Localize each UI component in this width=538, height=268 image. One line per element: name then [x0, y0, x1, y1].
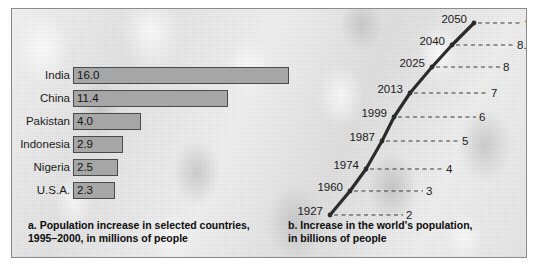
- bar-row: India16.0: [12, 67, 270, 90]
- year-label: 1927: [297, 205, 323, 217]
- data-point-marker: [430, 65, 435, 70]
- bar: [73, 67, 289, 84]
- value-label: 6: [479, 111, 485, 123]
- data-point-markers: [328, 21, 477, 218]
- bar-value-label: 16.0: [77, 67, 99, 83]
- bar-category-label: India: [12, 67, 70, 84]
- bar-value-label: 11.4: [77, 90, 99, 106]
- year-label: 2050: [441, 13, 467, 25]
- year-label: 1987: [349, 131, 375, 143]
- panel-b-caption: b. Increase in the world's population, i…: [288, 219, 508, 245]
- bar-row: Pakistan4.0: [12, 113, 270, 136]
- bar-row: Nigeria2.5: [12, 159, 270, 182]
- year-label: 1974: [333, 159, 359, 171]
- bar-row: U.S.A.2.3: [12, 182, 270, 205]
- bar-row: Indonesia2.9: [12, 136, 270, 159]
- data-point-marker: [328, 213, 333, 218]
- panel-a-caption-line1: a. Population increase in selected count…: [28, 219, 256, 232]
- bar-track: 2.3: [73, 182, 115, 199]
- value-label: 9.15: [525, 17, 527, 29]
- panel-a-bar-chart: India16.0China11.4Pakistan4.0Indonesia2.…: [12, 9, 270, 257]
- value-label: 8: [503, 61, 509, 73]
- year-label: 2013: [377, 83, 403, 95]
- bar-chart-rows: India16.0China11.4Pakistan4.0Indonesia2.…: [12, 67, 270, 205]
- panel-a-caption-line2: 1995–2000, in millions of people: [28, 232, 256, 245]
- value-label: 8.8: [517, 39, 527, 51]
- bar-value-label: 2.3: [77, 182, 93, 198]
- year-label: 2040: [419, 35, 445, 47]
- bar-track: 4.0: [73, 113, 141, 130]
- figure-frame: India16.0China11.4Pakistan4.0Indonesia2.…: [11, 8, 527, 258]
- data-point-marker: [364, 167, 369, 172]
- bar-value-label: 2.5: [77, 159, 93, 175]
- bar-category-label: U.S.A.: [12, 182, 70, 199]
- data-point-marker: [450, 43, 455, 48]
- bar-value-label: 4.0: [77, 113, 93, 129]
- data-point-marker: [472, 21, 477, 26]
- bar-track: 16.0: [73, 67, 289, 84]
- bar-row: China11.4: [12, 90, 270, 113]
- data-point-marker: [380, 139, 385, 144]
- bar-category-label: Indonesia: [12, 136, 70, 153]
- bar-category-label: China: [12, 90, 70, 107]
- line-chart-svg: [270, 9, 526, 224]
- panel-a-caption: a. Population increase in selected count…: [28, 219, 256, 245]
- panel-b-caption-line2: in billions of people: [288, 232, 508, 245]
- bar-category-label: Nigeria: [12, 159, 70, 176]
- data-point-marker: [392, 115, 397, 120]
- value-label: 3: [426, 185, 432, 197]
- bar-track: 2.5: [73, 159, 118, 176]
- year-label: 2025: [399, 57, 425, 69]
- value-label: 5: [462, 135, 468, 147]
- data-point-marker: [408, 91, 413, 96]
- bar-track: 2.9: [73, 136, 123, 153]
- bar-value-label: 2.9: [77, 136, 93, 152]
- data-point-marker: [348, 189, 353, 194]
- panel-b-line-chart: 1927219603197441987519996201372025820408…: [270, 9, 526, 257]
- population-line-series: [330, 23, 474, 215]
- value-label: 4: [446, 163, 452, 175]
- year-label: 1999: [361, 107, 387, 119]
- bar-category-label: Pakistan: [12, 113, 70, 130]
- year-label: 1960: [317, 181, 343, 193]
- value-label: 7: [491, 87, 497, 99]
- bar-track: 11.4: [73, 90, 228, 107]
- panel-b-caption-line1: b. Increase in the world's population,: [288, 219, 508, 232]
